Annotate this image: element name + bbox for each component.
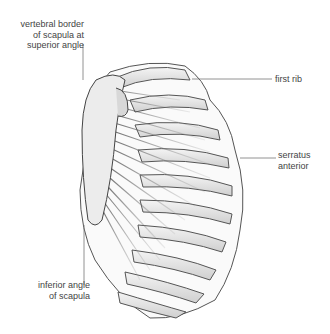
label-first-rib: first rib [275, 74, 302, 85]
label-vertebral-border: vertebral border of scapula at superior … [20, 19, 84, 51]
label-inferior-angle: inferior angle of scapula [38, 280, 90, 301]
label-serratus-anterior: serratus anterior [278, 150, 311, 171]
